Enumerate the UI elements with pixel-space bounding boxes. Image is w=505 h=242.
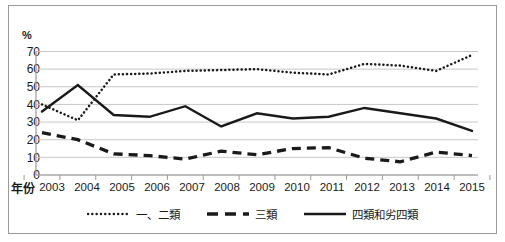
legend-label: 四類和劣四類 (352, 206, 418, 222)
legend-item-class-3: 三類 (206, 206, 277, 222)
legend-item-class-1-2: 一、二類 (87, 206, 180, 222)
x-tick-marks (24, 175, 490, 180)
series-layer (42, 55, 472, 162)
chart-legend: 一、二類 三類 四類和劣四類 (0, 206, 505, 222)
legend-item-class-4-and-worse: 四類和劣四類 (303, 206, 418, 222)
legend-swatch-dotted (87, 209, 131, 219)
legend-swatch-dashed (206, 209, 250, 219)
legend-label: 三類 (255, 206, 277, 222)
legend-label: 一、二類 (136, 206, 180, 222)
series-line-3 (42, 85, 472, 131)
chart-figure: % 年份 70 60 50 40 30 20 10 0 2003 2004 20… (0, 0, 505, 242)
legend-swatch-solid (303, 209, 347, 219)
